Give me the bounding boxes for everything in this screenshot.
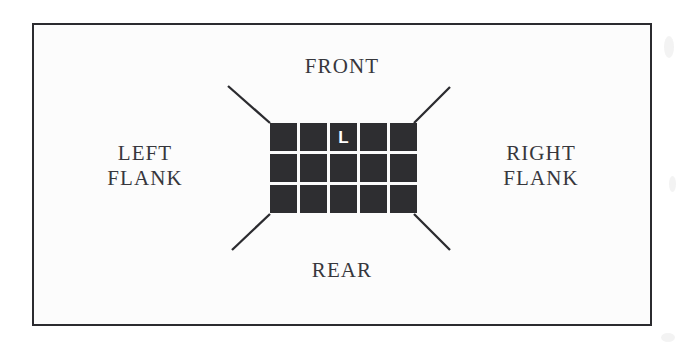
- formation-diagram: FRONT REAR LEFT FLANK RIGHT FLANK L: [0, 0, 685, 355]
- formation-cell: [390, 185, 417, 213]
- formation-cell: [360, 185, 387, 213]
- formation-cell: [330, 154, 357, 182]
- formation-cell: [390, 154, 417, 182]
- formation-cell: [330, 185, 357, 213]
- formation-cell: [360, 154, 387, 182]
- formation-cell: [300, 154, 327, 182]
- paper-speckle: [661, 333, 675, 342]
- label-right-flank: RIGHT FLANK: [458, 141, 624, 191]
- leader-marker: L: [330, 129, 357, 146]
- formation-cell: [390, 123, 417, 151]
- formation-grid: L: [270, 123, 417, 213]
- formation-cell: [270, 123, 297, 151]
- formation-cell: [360, 123, 387, 151]
- formation-cell: [300, 185, 327, 213]
- formation-cell: [270, 185, 297, 213]
- formation-cell: [300, 123, 327, 151]
- paper-speckle: [664, 36, 674, 58]
- formation-cell: [270, 154, 297, 182]
- formation-cell-leader: L: [330, 123, 357, 151]
- label-rear: REAR: [260, 258, 424, 283]
- label-front: FRONT: [260, 54, 424, 79]
- paper-speckle: [669, 176, 676, 192]
- label-left-flank: LEFT FLANK: [62, 141, 228, 191]
